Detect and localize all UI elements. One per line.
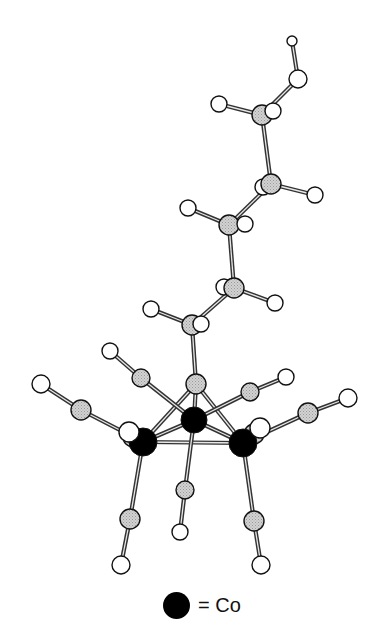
carbon-atom xyxy=(261,174,281,194)
oxygen-atom xyxy=(250,418,270,438)
hydrogen-atom xyxy=(211,96,227,112)
carbon-atom xyxy=(132,369,150,387)
cobalt-atom xyxy=(181,407,207,433)
hydrogen-atom xyxy=(237,216,253,232)
oxygen-atom xyxy=(289,70,307,88)
carbon-atom xyxy=(219,215,239,235)
hydrogen-atom xyxy=(265,103,281,119)
oxygen-atom xyxy=(119,422,139,442)
molecule-diagram xyxy=(0,0,378,635)
oxygen-atom xyxy=(252,556,270,574)
oxygen-atom xyxy=(172,524,188,540)
carbon-atom xyxy=(241,383,259,401)
carbon-atom xyxy=(176,481,194,499)
carbon-atom xyxy=(298,403,318,423)
bonds-layer xyxy=(41,41,348,565)
carbon-atom xyxy=(186,374,206,394)
carbon-atom xyxy=(71,400,91,420)
cobalt-legend-marker xyxy=(163,592,190,619)
hydrogen-atom xyxy=(143,301,159,317)
oxygen-atom xyxy=(278,369,294,385)
oxygen-atom xyxy=(339,389,357,407)
carbon-atom xyxy=(120,509,140,529)
hydrogen-atom xyxy=(267,295,283,311)
carbon-atom xyxy=(244,511,264,531)
legend-label: = Co xyxy=(198,594,241,617)
carbon-atom xyxy=(224,278,244,298)
legend: = Co xyxy=(163,592,241,619)
atoms-layer xyxy=(32,36,357,574)
hydrogen-atom xyxy=(287,36,297,46)
oxygen-atom xyxy=(32,375,50,393)
hydrogen-atom xyxy=(307,187,323,203)
hydrogen-atom xyxy=(193,316,209,332)
oxygen-atom xyxy=(112,556,130,574)
oxygen-atom xyxy=(102,343,118,359)
hydrogen-atom xyxy=(180,200,196,216)
